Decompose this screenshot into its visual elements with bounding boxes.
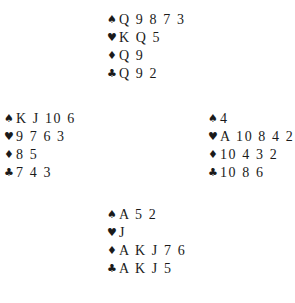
south-diamonds: A K J 7 6 bbox=[119, 242, 186, 260]
club-icon: ♣ bbox=[107, 65, 119, 83]
diamond-icon: ♦ bbox=[107, 242, 119, 260]
west-clubs: 7 4 3 bbox=[16, 164, 52, 182]
diamond-icon: ♦ bbox=[4, 146, 16, 164]
east-diamonds: 10 4 3 2 bbox=[220, 146, 278, 164]
diamond-icon: ♦ bbox=[107, 47, 119, 65]
spade-icon: ♠ bbox=[107, 11, 119, 29]
north-spades: Q 9 8 7 3 bbox=[119, 11, 186, 29]
south-clubs: A K J 5 bbox=[119, 260, 173, 278]
heart-icon: ♥ bbox=[107, 224, 119, 242]
north-diamonds-row: ♦ Q 9 bbox=[107, 47, 186, 65]
heart-icon: ♥ bbox=[107, 29, 119, 47]
south-hand: ♠ A 5 2 ♥ J ♦ A K J 7 6 ♣ A K J 5 bbox=[107, 206, 186, 278]
west-hearts-row: ♥ 9 7 6 3 bbox=[4, 128, 76, 146]
south-spades: A 5 2 bbox=[119, 206, 157, 224]
spade-icon: ♠ bbox=[4, 110, 16, 128]
south-diamonds-row: ♦ A K J 7 6 bbox=[107, 242, 186, 260]
south-spades-row: ♠ A 5 2 bbox=[107, 206, 186, 224]
north-clubs-row: ♣ Q 9 2 bbox=[107, 65, 186, 83]
west-clubs-row: ♣ 7 4 3 bbox=[4, 164, 76, 182]
west-diamonds-row: ♦ 8 5 bbox=[4, 146, 76, 164]
spade-icon: ♠ bbox=[107, 206, 119, 224]
east-hand: ♠ 4 ♥ A 10 8 4 2 ♦ 10 4 3 2 ♣ 10 8 6 bbox=[208, 110, 294, 182]
heart-icon: ♥ bbox=[208, 128, 220, 146]
east-hearts-row: ♥ A 10 8 4 2 bbox=[208, 128, 294, 146]
east-spades-row: ♠ 4 bbox=[208, 110, 294, 128]
east-spades: 4 bbox=[220, 110, 229, 128]
west-spades-row: ♠ K J 10 6 bbox=[4, 110, 76, 128]
east-clubs: 10 8 6 bbox=[220, 164, 265, 182]
heart-icon: ♥ bbox=[4, 128, 16, 146]
south-clubs-row: ♣ A K J 5 bbox=[107, 260, 186, 278]
club-icon: ♣ bbox=[208, 164, 220, 182]
north-hearts: K Q 5 bbox=[119, 29, 161, 47]
north-clubs: Q 9 2 bbox=[119, 65, 158, 83]
west-hand: ♠ K J 10 6 ♥ 9 7 6 3 ♦ 8 5 ♣ 7 4 3 bbox=[4, 110, 76, 182]
club-icon: ♣ bbox=[107, 260, 119, 278]
east-hearts: A 10 8 4 2 bbox=[220, 128, 294, 146]
west-hearts: 9 7 6 3 bbox=[16, 128, 66, 146]
south-hearts-row: ♥ J bbox=[107, 224, 186, 242]
east-diamonds-row: ♦ 10 4 3 2 bbox=[208, 146, 294, 164]
south-hearts: J bbox=[119, 224, 126, 242]
east-clubs-row: ♣ 10 8 6 bbox=[208, 164, 294, 182]
diamond-icon: ♦ bbox=[208, 146, 220, 164]
north-spades-row: ♠ Q 9 8 7 3 bbox=[107, 11, 186, 29]
north-hearts-row: ♥ K Q 5 bbox=[107, 29, 186, 47]
west-diamonds: 8 5 bbox=[16, 146, 38, 164]
west-spades: K J 10 6 bbox=[16, 110, 76, 128]
club-icon: ♣ bbox=[4, 164, 16, 182]
north-diamonds: Q 9 bbox=[119, 47, 144, 65]
north-hand: ♠ Q 9 8 7 3 ♥ K Q 5 ♦ Q 9 ♣ Q 9 2 bbox=[107, 11, 186, 83]
spade-icon: ♠ bbox=[208, 110, 220, 128]
